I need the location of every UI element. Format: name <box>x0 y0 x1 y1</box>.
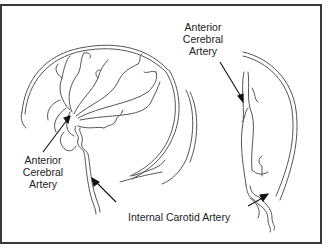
label-line: Anterior <box>178 21 228 33</box>
left-carotid <box>75 126 96 214</box>
left-skull-outline <box>22 45 168 112</box>
label-line: Internal Carotid Artery <box>128 211 268 223</box>
label-line: Artery <box>18 178 68 190</box>
label-line: Cerebral <box>178 33 228 45</box>
label-line: Anterior <box>18 154 68 166</box>
label-line: Artery <box>178 45 228 57</box>
right-skull-outline <box>243 52 297 200</box>
right-vessel-tree <box>241 72 246 185</box>
left-anterior-cerebral-artery-label: Anterior Cerebral Artery <box>18 154 68 190</box>
right-anterior-cerebral-artery-label: Anterior Cerebral Artery <box>178 21 228 57</box>
left-vessel-tree <box>60 56 70 110</box>
label-line: Cerebral <box>18 166 68 178</box>
internal-carotid-artery-label: Internal Carotid Artery <box>128 211 268 223</box>
